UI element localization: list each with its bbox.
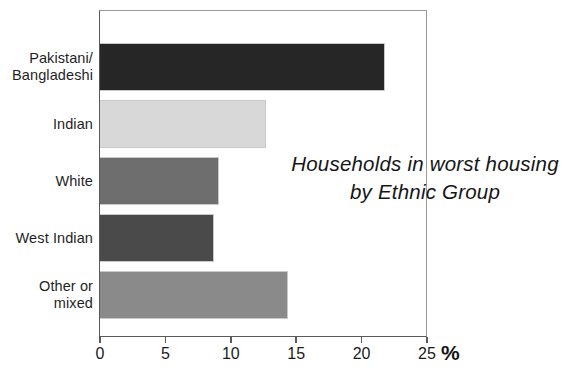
axis-tick-label: 15 bbox=[287, 345, 305, 363]
category-label-pakistani-bangladeshi: Pakistani/ Bangladeshi bbox=[0, 50, 93, 84]
bar-other-or-mixed bbox=[100, 271, 288, 319]
bar-white bbox=[100, 157, 219, 205]
category-label-west-indian: West Indian bbox=[0, 230, 93, 247]
bar-indian bbox=[100, 100, 266, 148]
axis-tick-label: 10 bbox=[222, 345, 240, 363]
bar-chart: Pakistani/ Bangladeshi Indian White West… bbox=[0, 0, 581, 374]
axis-unit-label: % bbox=[441, 342, 460, 364]
bar-row bbox=[100, 100, 427, 148]
bar-row bbox=[100, 271, 427, 319]
axis-tick-mark bbox=[99, 337, 101, 343]
category-label-white: White bbox=[0, 173, 93, 190]
axis-tick-label: 0 bbox=[96, 345, 105, 363]
bar-row bbox=[100, 43, 427, 91]
axis-tick-mark bbox=[361, 337, 363, 343]
axis-tick-mark bbox=[426, 337, 428, 343]
category-label-line: Pakistani/ bbox=[0, 50, 93, 67]
axis-tick-mark bbox=[230, 337, 232, 343]
chart-title-line: Households in worst housing bbox=[272, 150, 578, 178]
category-label-indian: Indian bbox=[0, 116, 93, 133]
category-label-other-or-mixed: Other or mixed bbox=[0, 278, 93, 312]
bar-west-indian bbox=[100, 214, 214, 262]
category-label-line: Indian bbox=[0, 116, 93, 133]
category-label-line: Other or bbox=[0, 278, 93, 295]
category-label-line: West Indian bbox=[0, 230, 93, 247]
category-axis-labels: Pakistani/ Bangladeshi Indian White West… bbox=[0, 11, 93, 337]
axis-tick-mark bbox=[295, 337, 297, 343]
bar-row bbox=[100, 214, 427, 262]
category-label-line: mixed bbox=[0, 295, 93, 312]
axis-tick-label: 5 bbox=[161, 345, 170, 363]
axis-tick-label: 25 bbox=[418, 345, 436, 363]
bar-pakistani-bangladeshi bbox=[100, 43, 385, 91]
category-label-line: Bangladeshi bbox=[0, 67, 93, 84]
category-label-line: White bbox=[0, 173, 93, 190]
axis-tick-mark bbox=[165, 337, 167, 343]
axis-tick-label: 20 bbox=[353, 345, 371, 363]
chart-title-line: by Ethnic Group bbox=[272, 178, 578, 206]
chart-title: Households in worst housing by Ethnic Gr… bbox=[272, 150, 578, 206]
